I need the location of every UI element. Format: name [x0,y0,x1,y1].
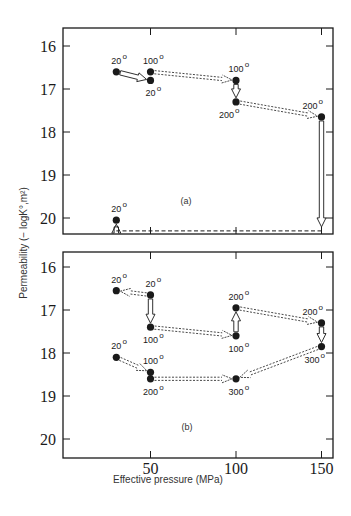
temperature-label: 100o [143,352,164,366]
x-axis-title: Effective pressure (MPa) [113,474,223,485]
svg-text:200: 200 [143,387,158,397]
data-point [113,217,120,224]
svg-text:o: o [157,84,162,93]
dashed-arrow-line [154,329,222,336]
dashed-arrow-line [240,104,308,116]
y-axis-title: Permeability (− logK°,m²) [18,187,29,299]
y-tick-label: 19 [40,388,56,405]
temperature-label: 200o [219,106,240,120]
dashed-arrow-head [222,330,232,338]
panel-b-ticks [63,252,333,458]
panel-a-ticks [63,28,333,234]
svg-text:300: 300 [228,387,243,397]
svg-text:o: o [319,97,324,106]
svg-text:300: 300 [304,355,319,365]
dashed-arrow-head [240,370,251,377]
svg-text:100: 100 [143,335,158,345]
data-point [232,375,239,382]
temperature-label: 200o [302,303,323,317]
svg-text:200: 200 [302,101,317,111]
panel-a-y-tick-labels: 1617181920 [40,38,56,227]
temperature-label: 20o [145,275,161,289]
dashed-arrow-line [154,74,222,81]
panel-b: 1617181920 20o20o100o100o200o200o300o20o… [40,252,333,458]
data-point [147,68,154,75]
svg-text:20: 20 [111,56,121,66]
panel-b-y-tick-labels: 1617181920 [40,259,56,448]
panel-b-frame [63,252,333,458]
svg-text:100: 100 [143,356,158,366]
dashed-arrow-line [240,307,308,319]
y-tick-label: 18 [40,124,56,141]
svg-text:100: 100 [228,344,243,354]
svg-text:o: o [319,303,324,312]
svg-text:o: o [245,288,250,297]
y-tick-label: 16 [40,259,56,276]
svg-text:20: 20 [145,88,155,98]
temperature-label: 20o [145,84,161,98]
solid-arrow [120,71,147,82]
data-point [147,375,154,382]
dashed-arrow-head [307,317,318,325]
svg-text:o: o [245,60,250,69]
dashed-arrow-line [130,291,146,293]
temperature-label: 100o [228,60,249,74]
svg-text:o: o [321,351,326,360]
svg-text:o: o [245,340,250,349]
data-point [147,77,154,84]
solid-arrow [317,121,326,227]
data-point [147,369,154,376]
dashed-arrow-line [121,357,139,365]
solid-arrow [146,299,155,323]
dashed-arrow-line [240,310,308,322]
svg-text:o: o [159,331,164,340]
svg-text:o: o [159,383,164,392]
solid-arrow [232,312,241,332]
data-point [232,77,239,84]
solid-arrow [317,327,326,343]
panel-a-label: (a) [181,196,192,206]
temperature-label: 200o [302,97,323,111]
svg-text:20: 20 [111,275,121,285]
figure: 1617181920 20o100o20o100o200o200o20o (a)… [0,0,351,516]
y-tick-label: 20 [40,210,56,227]
solid-arrow [232,84,241,98]
svg-text:100: 100 [143,56,158,66]
data-point [232,98,239,105]
y-tick-label: 16 [40,38,56,55]
x-tick-label: 150 [310,460,334,477]
dashed-arrow-line [240,101,308,113]
dashed-arrow-line [155,326,223,333]
panel-b-points: 20o20o100o100o200o200o300o20o100o200o300… [111,271,325,397]
data-point [147,291,154,298]
y-tick-label: 17 [40,81,56,98]
svg-text:200: 200 [302,307,317,317]
data-point [318,113,325,120]
temperature-label: 20o [111,52,127,66]
svg-text:o: o [159,352,164,361]
data-point [318,343,325,350]
y-tick-label: 18 [40,345,56,362]
svg-text:o: o [123,52,128,61]
data-point [232,304,239,311]
panel-a-arrows [112,71,326,234]
svg-text:o: o [235,106,240,115]
dashed-arrow-head [222,75,232,83]
panel-a: 1617181920 20o100o20o100o200o200o20o (a) [40,28,333,234]
temperature-label: 100o [228,340,249,354]
data-point [147,324,154,331]
temperature-label: 200o [228,288,249,302]
svg-text:20: 20 [145,279,155,289]
svg-text:o: o [123,200,128,209]
svg-text:20: 20 [111,204,121,214]
svg-text:o: o [157,275,162,284]
dashed-arrow-head [120,288,130,296]
data-point [113,354,120,361]
dashed-arrow-head [222,375,232,383]
data-point [113,287,120,294]
temperature-label: 20o [111,337,127,351]
svg-text:o: o [159,52,164,61]
svg-text:o: o [123,271,128,280]
temperature-label: 300o [228,383,249,397]
panel-b-label: (b) [182,422,193,432]
